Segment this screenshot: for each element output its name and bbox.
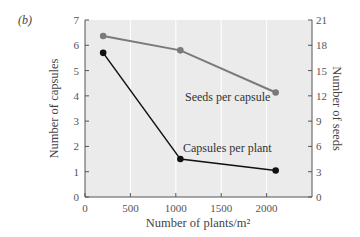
data-point bbox=[100, 50, 107, 57]
x-tick-label: 0 bbox=[82, 202, 88, 214]
left-y-tick-label: 1 bbox=[74, 166, 80, 178]
x-tick-label: 1500 bbox=[210, 202, 233, 214]
right-y-tick-label: 3 bbox=[316, 166, 322, 178]
right-y-tick-label: 18 bbox=[316, 39, 328, 51]
right-y-tick-label: 21 bbox=[316, 14, 327, 26]
left-y-tick-label: 3 bbox=[74, 115, 80, 127]
x-axis-title: Number of plants/m² bbox=[146, 216, 251, 230]
series-label: Capsules per plant bbox=[183, 141, 272, 155]
left-y-axis-title: Number of capsules bbox=[47, 58, 61, 158]
data-point bbox=[272, 89, 279, 96]
data-point bbox=[177, 156, 184, 163]
right-y-tick-label: 12 bbox=[316, 90, 327, 102]
x-tick-label: 2000 bbox=[256, 202, 279, 214]
right-y-tick-label: 15 bbox=[316, 65, 328, 77]
right-y-tick-label: 0 bbox=[316, 191, 322, 203]
right-y-tick-label: 6 bbox=[316, 140, 322, 152]
series-label: Seeds per capsule bbox=[185, 90, 270, 104]
left-y-tick-label: 4 bbox=[74, 90, 80, 102]
left-y-tick-label: 2 bbox=[74, 140, 80, 152]
left-y-tick-label: 6 bbox=[74, 39, 80, 51]
chart: (b) 0500100015002000 01234567 0369121518… bbox=[0, 0, 360, 237]
panel-label: (b) bbox=[18, 13, 32, 27]
x-tick-label: 1000 bbox=[165, 202, 188, 214]
data-point bbox=[100, 33, 107, 40]
left-y-tick-label: 7 bbox=[74, 14, 80, 26]
right-y-tick-label: 9 bbox=[316, 115, 322, 127]
right-y-axis-title: Number of seeds bbox=[330, 66, 344, 151]
x-tick-label: 500 bbox=[122, 202, 139, 214]
left-y-tick-label: 0 bbox=[74, 191, 80, 203]
data-point bbox=[272, 167, 279, 174]
left-y-tick-label: 5 bbox=[74, 65, 80, 77]
data-point bbox=[177, 47, 184, 54]
